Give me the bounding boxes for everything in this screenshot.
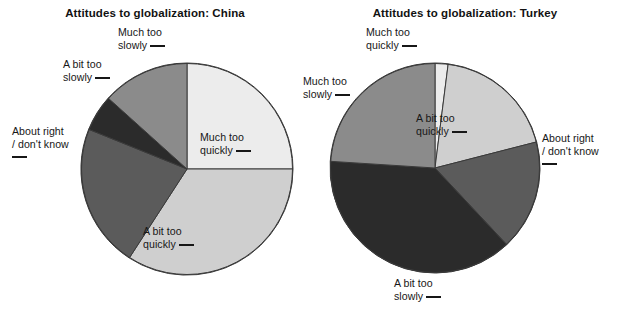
label-line-2: / don't know bbox=[12, 138, 69, 151]
leader-dash bbox=[179, 244, 194, 245]
leader-dash bbox=[236, 150, 251, 151]
label-text: slowly bbox=[394, 290, 423, 302]
label-line-1: Much too bbox=[200, 131, 251, 144]
label-line-2: quickly bbox=[200, 144, 251, 157]
label-text: quickly bbox=[366, 39, 399, 51]
label-line-1: A bit too bbox=[394, 277, 441, 290]
label-line-2: slowly bbox=[303, 88, 350, 101]
label-text: slowly bbox=[118, 39, 147, 51]
chart-title-china: Attitudes to globalization: China bbox=[0, 7, 310, 19]
label-turkey-a-bit-too-quickly: A bit too quickly bbox=[416, 112, 467, 137]
leader-dash bbox=[150, 45, 165, 46]
label-line-2: quickly bbox=[143, 238, 194, 251]
leader-dash bbox=[452, 131, 467, 132]
label-text: quickly bbox=[416, 125, 449, 137]
label-line-1: A bit too bbox=[143, 225, 194, 238]
label-line-1: A bit too bbox=[63, 58, 110, 71]
label-text: slowly bbox=[303, 88, 332, 100]
label-line-2: slowly bbox=[394, 290, 441, 303]
label-text: quickly bbox=[143, 238, 176, 250]
label-line-2: / don't know bbox=[542, 145, 599, 158]
label-turkey-a-bit-too-slowly: A bit too slowly bbox=[394, 277, 441, 302]
leader-dash bbox=[542, 163, 557, 164]
chart-title-turkey: Attitudes to globalization: Turkey bbox=[310, 7, 620, 19]
label-china-a-bit-too-quickly: A bit too quickly bbox=[143, 225, 194, 250]
label-line-1: A bit too bbox=[416, 112, 467, 125]
label-line-1: Much too bbox=[366, 26, 417, 39]
label-line-2: quickly bbox=[416, 125, 467, 138]
leader-dash bbox=[335, 94, 350, 95]
leader-dash bbox=[426, 296, 441, 297]
label-china-much-too-quickly: Much too quickly bbox=[200, 131, 251, 156]
label-china-about-right: About right / don't know bbox=[12, 125, 69, 158]
label-line-1: Much too bbox=[303, 75, 350, 88]
pie-chart-turkey bbox=[330, 63, 540, 273]
leader-dash bbox=[95, 77, 110, 78]
label-china-much-too-slowly: Much too slowly bbox=[118, 26, 165, 51]
label-china-a-bit-too-slowly: A bit too slowly bbox=[63, 58, 110, 83]
label-line-2: slowly bbox=[118, 39, 165, 52]
label-line-1: About right bbox=[12, 125, 69, 138]
label-line-1: Much too bbox=[118, 26, 165, 39]
panel-china: Attitudes to globalization: China Much t… bbox=[0, 0, 310, 323]
label-turkey-much-too-slowly: Much too slowly bbox=[303, 75, 350, 100]
label-line-2: quickly bbox=[366, 39, 417, 52]
label-turkey-much-too-quickly: Much too quickly bbox=[366, 26, 417, 51]
leader-dash bbox=[12, 156, 27, 157]
globalization-attitudes-figure: Attitudes to globalization: China Much t… bbox=[0, 0, 620, 323]
label-turkey-about-right: About right / don't know bbox=[542, 132, 599, 165]
label-line-2: slowly bbox=[63, 71, 110, 84]
label-text: quickly bbox=[200, 144, 233, 156]
label-line-1: About right bbox=[542, 132, 599, 145]
label-text: slowly bbox=[63, 71, 92, 83]
leader-dash bbox=[402, 45, 417, 46]
